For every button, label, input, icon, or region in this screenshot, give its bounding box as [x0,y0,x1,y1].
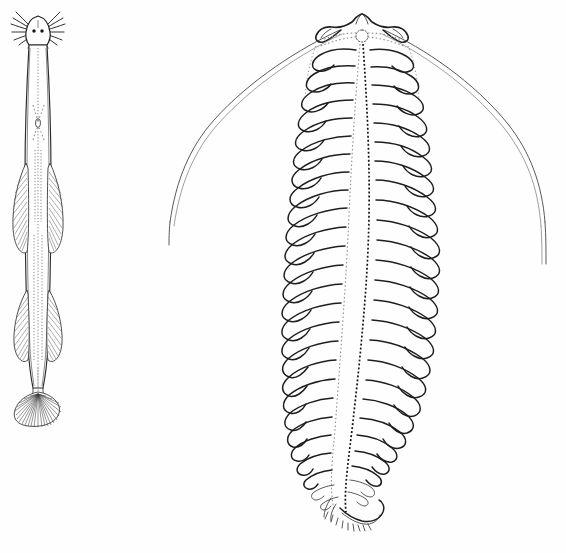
eye-spot-left [32,29,35,32]
plate-background [0,0,566,553]
plate-canvas [0,0,566,553]
illustration-plate: Chaetognath plate — whole animal and enl… [0,0,566,553]
eye-spot-right [40,29,43,32]
